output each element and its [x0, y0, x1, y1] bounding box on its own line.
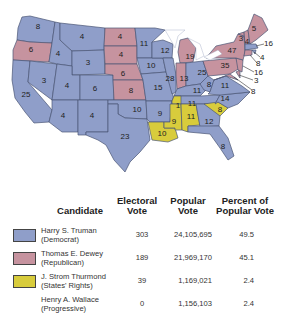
svg-text:13: 13 — [180, 74, 189, 83]
percent-popular-vote: 45.1 — [224, 253, 254, 262]
svg-text:8: 8 — [218, 105, 223, 114]
svg-text:10: 10 — [158, 129, 167, 138]
svg-text:14: 14 — [221, 94, 230, 103]
percent-popular-vote: 49.5 — [224, 230, 254, 239]
svg-text:9: 9 — [158, 109, 163, 118]
header-popular-vote: Popular Vote — [163, 196, 213, 216]
svg-text:3: 3 — [42, 76, 47, 85]
svg-text:5: 5 — [252, 24, 257, 33]
svg-text:11: 11 — [221, 81, 230, 90]
candidate-name: Henry A. Wallace — [41, 295, 121, 304]
candidate-cell: J. Strom Thurmond (States' Rights) — [41, 272, 121, 290]
popular-vote: 21,969,170 — [156, 253, 212, 262]
color-swatch-states-rights — [13, 275, 36, 288]
svg-text:3: 3 — [254, 76, 259, 85]
color-swatch-democrat — [13, 229, 36, 242]
svg-text:25: 25 — [22, 90, 31, 99]
svg-text:4: 4 — [90, 111, 95, 120]
header-electoral-vote: Electoral Vote — [112, 196, 162, 216]
legend-row-thurmond: J. Strom Thurmond (States' Rights) 39 1,… — [0, 272, 282, 294]
svg-text:25: 25 — [198, 68, 207, 77]
svg-text:12: 12 — [161, 46, 170, 55]
candidate-name: J. Strom Thurmond — [41, 272, 121, 281]
candidate-party: (Republican) — [41, 258, 121, 267]
svg-text:9: 9 — [172, 117, 177, 126]
header-electoral-line2: Vote — [112, 206, 162, 216]
candidate-party: (Democrat) — [41, 235, 121, 244]
svg-text:8: 8 — [36, 22, 41, 31]
svg-text:15: 15 — [154, 83, 163, 92]
popular-vote: 24,105,695 — [156, 230, 212, 239]
svg-text:16: 16 — [264, 39, 273, 48]
svg-text:4: 4 — [65, 81, 70, 90]
state-CT — [244, 50, 252, 56]
candidate-cell: Henry A. Wallace (Progressive) — [41, 295, 121, 313]
svg-text:19: 19 — [186, 52, 195, 61]
svg-text:35: 35 — [221, 61, 230, 70]
svg-text:11: 11 — [187, 112, 196, 121]
candidate-cell: Thomas E. Dewey (Republican) — [41, 249, 121, 267]
svg-text:47: 47 — [228, 46, 237, 55]
svg-text:6: 6 — [121, 69, 126, 78]
legend-row-dewey: Thomas E. Dewey (Republican) 189 21,969,… — [0, 249, 282, 271]
candidate-name: Harry S. Truman — [41, 226, 121, 235]
svg-text:4: 4 — [245, 37, 250, 46]
candidate-cell: Harry S. Truman (Democrat) — [41, 226, 121, 244]
svg-text:3: 3 — [86, 58, 91, 67]
percent-popular-vote: 2.4 — [224, 276, 254, 285]
svg-text:4: 4 — [118, 32, 123, 41]
candidate-party: (States' Rights) — [41, 281, 121, 290]
state-FL — [188, 126, 234, 160]
svg-text:11: 11 — [193, 86, 202, 95]
svg-text:6: 6 — [29, 45, 34, 54]
svg-text:4: 4 — [80, 32, 85, 41]
svg-text:4: 4 — [260, 53, 265, 62]
popular-vote: 1,156,103 — [156, 299, 212, 308]
candidate-party: (Progressive) — [41, 304, 121, 313]
svg-text:4: 4 — [56, 49, 61, 58]
state-DE — [236, 70, 240, 78]
legend-row-wallace: Henry A. Wallace (Progressive) 0 1,156,1… — [0, 295, 282, 317]
legend-row-truman: Harry S. Truman (Democrat) 303 24,105,69… — [0, 226, 282, 248]
svg-text:6: 6 — [93, 84, 98, 93]
svg-text:4: 4 — [119, 50, 124, 59]
election-results-legend: Candidate Electoral Vote Popular Vote Pe… — [0, 194, 282, 308]
svg-text:8: 8 — [256, 59, 261, 68]
candidate-name: Thomas E. Dewey — [41, 249, 121, 258]
svg-text:10: 10 — [147, 61, 156, 70]
svg-text:8: 8 — [251, 87, 256, 96]
svg-text:3: 3 — [239, 34, 244, 43]
svg-text:1: 1 — [176, 101, 181, 110]
svg-text:11: 11 — [188, 99, 197, 108]
svg-text:8: 8 — [207, 80, 212, 89]
percent-popular-vote: 2.4 — [224, 299, 254, 308]
header-popular-line2: Vote — [163, 206, 213, 216]
svg-text:28: 28 — [166, 74, 175, 83]
popular-vote: 1,169,021 — [156, 276, 212, 285]
svg-text:8: 8 — [129, 86, 134, 95]
svg-text:10: 10 — [133, 105, 142, 114]
svg-text:23: 23 — [121, 132, 130, 141]
header-candidate-text: Candidate — [57, 205, 103, 216]
color-swatch-republican — [13, 252, 36, 265]
svg-text:8: 8 — [221, 142, 226, 151]
header-percent-popular-vote: Percent of Popular Vote — [210, 196, 280, 216]
svg-text:12: 12 — [205, 117, 214, 126]
header-percent-line2: Popular Vote — [210, 206, 280, 216]
svg-text:11: 11 — [140, 39, 149, 48]
election-map: 8 6 25 4 3 4 3 4 6 4 4 4 4 6 8 10 23 11 … — [0, 0, 282, 195]
svg-text:4: 4 — [61, 111, 66, 120]
header-candidate: Candidate — [50, 206, 110, 216]
